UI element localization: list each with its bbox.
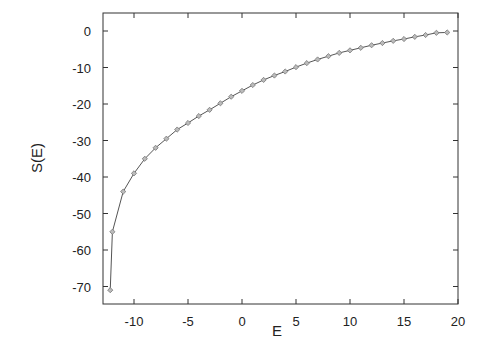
x-tick-label: -10 [125, 314, 144, 329]
data-point-marker [108, 288, 113, 293]
data-point-marker [239, 88, 244, 93]
x-axis-ticks: -10-505101520 [125, 13, 466, 329]
data-point-marker [380, 40, 385, 45]
data-point-marker [185, 120, 190, 125]
data-point-marker [229, 94, 234, 99]
y-tick-label: -60 [72, 243, 91, 258]
data-point-marker [218, 101, 223, 106]
data-series [108, 30, 450, 293]
data-point-marker [369, 43, 374, 48]
data-point-marker [315, 57, 320, 62]
data-point-marker [358, 45, 363, 50]
data-point-marker [121, 189, 126, 194]
data-point-marker [337, 50, 342, 55]
data-point-marker [391, 38, 396, 43]
data-point-marker [250, 82, 255, 87]
data-point-marker [445, 30, 450, 35]
y-tick-label: -30 [72, 134, 91, 149]
y-tick-label: -10 [72, 61, 91, 76]
series-line [110, 32, 447, 290]
x-tick-label: -5 [182, 314, 194, 329]
data-point-marker [207, 107, 212, 112]
x-tick-label: 15 [397, 314, 411, 329]
data-point-marker [423, 32, 428, 37]
data-point-marker [261, 77, 266, 82]
data-point-marker [196, 113, 201, 118]
x-axis-label: E [272, 322, 282, 339]
data-point-marker [347, 48, 352, 53]
data-point-marker [293, 65, 298, 70]
y-axis-label: S(E) [28, 143, 45, 173]
plot-frame [103, 13, 458, 304]
chart: -10-505101520 0-10-20-30-40-50-60-70 E S… [0, 0, 482, 361]
data-point-marker [272, 73, 277, 78]
data-point-marker [110, 229, 115, 234]
x-tick-label: 0 [238, 314, 245, 329]
data-point-marker [434, 30, 439, 35]
y-axis-ticks: 0-10-20-30-40-50-60-70 [72, 24, 458, 295]
data-point-marker [412, 34, 417, 39]
y-tick-label: -40 [72, 170, 91, 185]
x-tick-label: 20 [451, 314, 465, 329]
y-tick-label: -20 [72, 97, 91, 112]
x-tick-label: 10 [343, 314, 357, 329]
data-point-marker [326, 54, 331, 59]
data-point-marker [401, 36, 406, 41]
y-tick-label: -50 [72, 207, 91, 222]
data-point-marker [304, 61, 309, 66]
plot-border [103, 13, 458, 304]
y-tick-label: -70 [72, 280, 91, 295]
x-tick-label: 5 [292, 314, 299, 329]
data-point-marker [283, 69, 288, 74]
y-tick-label: 0 [84, 24, 91, 39]
